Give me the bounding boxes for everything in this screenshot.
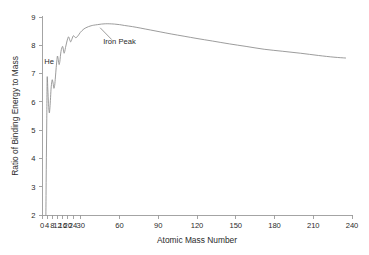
- x-tick-label: 60: [115, 221, 123, 230]
- x-tick-label: 150: [229, 221, 242, 230]
- axes: [42, 16, 353, 215]
- x-axis-ticks: 04812162024306090120150180210240: [40, 215, 358, 230]
- x-tick-label: 30: [77, 221, 85, 230]
- iron-peak-annotation: Iron Peak: [103, 37, 136, 46]
- y-tick-label: 2: [31, 211, 35, 220]
- y-tick-label: 7: [31, 69, 35, 78]
- y-axis-ticks: 23456789: [31, 13, 42, 220]
- y-tick-label: 8: [31, 41, 35, 50]
- he-annotation: He: [44, 57, 54, 66]
- data-series-group: [46, 24, 346, 215]
- y-tick-label: 4: [31, 154, 35, 163]
- x-axis-title: Atomic Mass Number: [157, 235, 237, 245]
- x-tick-label: 180: [268, 221, 281, 230]
- y-tick-label: 3: [31, 183, 35, 192]
- binding-energy-curve: [46, 24, 346, 215]
- y-tick-label: 9: [31, 13, 35, 22]
- x-tick-label: 0: [40, 221, 44, 230]
- binding-energy-chart: 23456789 0481216202430609012015018021024…: [0, 0, 369, 255]
- y-tick-label: 5: [31, 126, 35, 135]
- x-tick-label: 120: [191, 221, 204, 230]
- x-tick-label: 4: [45, 221, 49, 230]
- chart-canvas: 23456789 0481216202430609012015018021024…: [0, 0, 369, 255]
- x-tick-label: 240: [346, 221, 359, 230]
- y-axis-title: Ratio of Binding Energy to Mass: [10, 56, 20, 176]
- x-tick-label: 90: [154, 221, 162, 230]
- y-tick-label: 6: [31, 98, 35, 107]
- x-tick-label: 210: [307, 221, 320, 230]
